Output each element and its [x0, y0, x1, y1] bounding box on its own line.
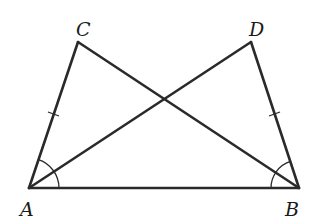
geometry-diagram: C D A B — [0, 0, 315, 224]
vertex-label-a: A — [18, 198, 34, 220]
segment-bc — [78, 42, 299, 188]
segment-ad — [29, 42, 251, 188]
vertex-label-d: D — [248, 18, 264, 40]
vertex-label-c: C — [76, 18, 91, 40]
segment-ac — [29, 42, 78, 188]
vertex-label-b: B — [284, 198, 299, 220]
segment-bd — [251, 42, 299, 188]
